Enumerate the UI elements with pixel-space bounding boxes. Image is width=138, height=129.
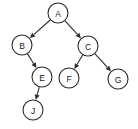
edge-c-to-g bbox=[95, 54, 107, 68]
edge-b-to-e bbox=[28, 54, 34, 64]
node-a[interactable]: A bbox=[48, 3, 68, 23]
graph-diagram: ABCEFGJ bbox=[0, 0, 138, 129]
edge-c-to-f bbox=[77, 55, 83, 64]
edge-a-to-c bbox=[65, 21, 77, 35]
node-label-b: B bbox=[19, 41, 25, 51]
edge-a-to-b bbox=[34, 20, 50, 35]
node-f[interactable]: F bbox=[59, 68, 79, 88]
node-e[interactable]: E bbox=[32, 67, 52, 87]
node-label-j: J bbox=[31, 106, 35, 116]
node-j[interactable]: J bbox=[23, 100, 43, 120]
node-label-g: G bbox=[115, 75, 122, 85]
node-label-c: C bbox=[85, 42, 91, 52]
nodes-group: ABCEFGJ bbox=[12, 3, 128, 120]
node-label-a: A bbox=[55, 9, 61, 19]
graph-canvas: ABCEFGJ bbox=[0, 0, 138, 129]
node-label-f: F bbox=[66, 74, 71, 84]
node-label-e: E bbox=[39, 73, 45, 83]
node-b[interactable]: B bbox=[12, 35, 32, 55]
arrowhead-icon-e-j bbox=[35, 94, 40, 100]
node-g[interactable]: G bbox=[108, 69, 128, 89]
edge-e-to-j bbox=[37, 87, 39, 95]
node-c[interactable]: C bbox=[78, 36, 98, 56]
